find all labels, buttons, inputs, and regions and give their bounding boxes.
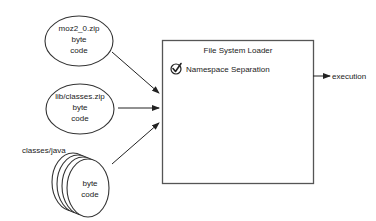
source-line: code <box>70 46 88 55</box>
loader-title: File System Loader <box>204 46 273 55</box>
source-line: code <box>81 190 99 199</box>
source-line: byte <box>72 103 88 112</box>
arrow-moz2-to-loader <box>112 52 159 93</box>
source-line: byte <box>71 35 87 44</box>
source-line: code <box>71 114 89 123</box>
namespace-separation-label: Namespace Separation <box>186 65 270 74</box>
source-moz2-zip: moz2_0.zip byte code <box>45 16 113 66</box>
stacked-file-ellipse-front <box>67 159 109 217</box>
file-system-loader-box: File System Loader Namespace Separation <box>163 41 314 184</box>
source-name: moz2_0.zip <box>59 24 100 33</box>
source-line: byte <box>82 179 98 188</box>
source-classes-java: classes/java byte code <box>22 146 109 217</box>
file-system-loader-diagram: moz2_0.zip byte code lib/classes.zip byt… <box>0 0 376 221</box>
source-lib-classes-zip: lib/classes.zip byte code <box>46 84 114 134</box>
arrow-classes-java-to-loader <box>112 123 159 164</box>
execution-label: execution <box>332 72 366 81</box>
check-circle-icon <box>171 64 181 75</box>
source-name: lib/classes.zip <box>55 92 105 101</box>
source-label: classes/java <box>22 146 66 155</box>
